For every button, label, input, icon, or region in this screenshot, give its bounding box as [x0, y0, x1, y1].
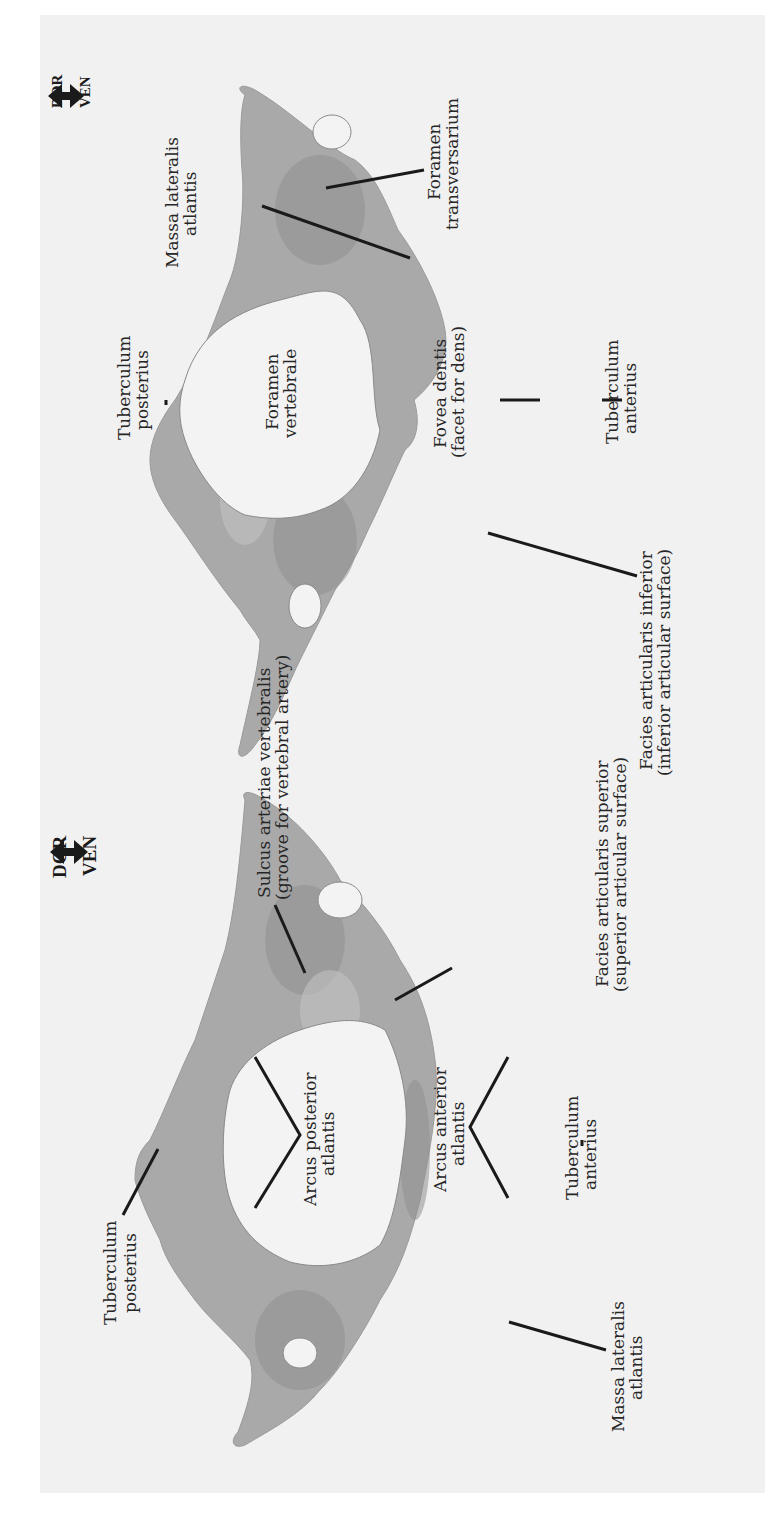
shade	[275, 155, 365, 265]
label-fovea-dentis-2: (facet for dens)	[448, 326, 468, 458]
label-arcus-posterior: Arcus posterior	[300, 1071, 320, 1207]
ven-label: VEN	[77, 76, 93, 108]
label-sulcus-2: (groove for vertebral artery)	[272, 655, 292, 900]
foramen-transversarium-bottom	[289, 584, 321, 628]
foramen-transversarium-top	[318, 882, 362, 918]
label-arcus-anterior: Arcus anterior	[430, 1066, 450, 1193]
label-tuberculum-posterius: Tuberculum	[100, 1221, 120, 1325]
label-tuberculum-posterius: Tuberculum	[114, 336, 134, 440]
label-foramen-transversarium: Foramen	[424, 123, 444, 200]
label-arcus-posterior-2: atlantis	[318, 1112, 338, 1176]
foramen-transversarium-bottom	[283, 1338, 317, 1368]
label-tuberculum-anterius: Tuberculum	[602, 340, 622, 444]
label-massa-lateralis-2: atlantis	[180, 172, 200, 236]
label-tuberculum-posterius-2: posterius	[132, 350, 152, 430]
label-massa-lateralis: Massa lateralis	[608, 1301, 628, 1432]
atlas-vertebra-figure: DOR VEN Massa lateralis atlantis Foramen…	[0, 0, 775, 1532]
label-facies-inferior: Facies articularis inferior	[636, 550, 656, 770]
ven-label: VEN	[79, 836, 100, 876]
label-arcus-anterior-2: atlantis	[448, 1102, 468, 1166]
foramen-transversarium-top	[313, 115, 351, 149]
label-tuberculum-anterius-2: anterius	[620, 363, 640, 434]
label-massa-lateralis-2: atlantis	[626, 1336, 646, 1400]
label-foramen-transversarium-2: transversarium	[442, 98, 462, 230]
label-fovea-dentis: Fovea dentis	[430, 339, 450, 448]
label-foramen-vertebrale-2: vertebrale	[280, 349, 300, 439]
label-tuberculum-posterius-2: posterius	[120, 1233, 140, 1313]
label-sulcus: Sulcus arteriae vertebralis	[254, 668, 274, 898]
label-foramen-vertebrale: Foramen	[262, 353, 282, 430]
label-facies-superior-2: (superior articular surface)	[610, 757, 630, 992]
label-facies-inferior-2: (inferior articular surface)	[654, 549, 674, 776]
label-tuberculum-anterius: Tuberculum	[562, 1096, 582, 1200]
label-massa-lateralis: Massa lateralis	[162, 137, 182, 268]
label-facies-superior: Facies articularis superior	[592, 759, 612, 987]
label-tuberculum-anterius-2: anterius	[580, 1119, 600, 1190]
